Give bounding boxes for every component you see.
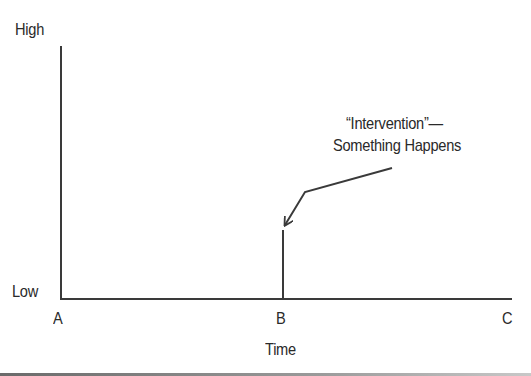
x-axis-title: Time xyxy=(265,341,296,358)
x-tick-b: B xyxy=(276,310,286,327)
diagram-canvas xyxy=(0,0,531,376)
annotation-line-2: Something Happens xyxy=(333,137,461,154)
y-axis-high-label: High xyxy=(15,21,44,38)
callout-arrow xyxy=(285,168,392,225)
x-tick-a: A xyxy=(53,310,63,327)
annotation-line-1: “Intervention”— xyxy=(346,115,443,132)
x-tick-c: C xyxy=(502,310,512,327)
y-axis-low-label: Low xyxy=(12,283,38,300)
